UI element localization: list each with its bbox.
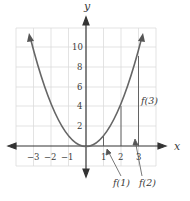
x-tick-minus2: −2	[44, 152, 57, 162]
x-tick-minus1: −1	[61, 152, 74, 162]
x-axis-right-arrow-icon	[158, 143, 166, 149]
curve-left-arrow-icon	[27, 33, 34, 42]
x-tick-1: 1	[101, 152, 106, 162]
curve-right-arrow-icon	[138, 33, 145, 42]
y-tick-labels: 2 4 6 8 10	[72, 42, 83, 131]
y-tick-4: 4	[77, 101, 82, 111]
y-tick-10: 10	[72, 42, 83, 52]
annotation-f2: f(2)	[138, 177, 156, 188]
y-tick-2: 2	[77, 121, 82, 131]
x-tick-minus3: −3	[27, 152, 40, 162]
x-axis-left-arrow-icon	[8, 143, 16, 149]
x-axis-label: x	[174, 140, 181, 153]
y-tick-6: 6	[77, 82, 82, 92]
y-axis-label: y	[83, 0, 91, 13]
x-tick-labels: −3 −2 −1 1 2 3	[27, 152, 141, 162]
y-tick-8: 8	[77, 62, 82, 72]
x-tick-2: 2	[118, 152, 123, 162]
parabola-graph: y x −3 −2 −1 1 2 3 2 4 6 8 10 f(3) f(1) …	[0, 0, 190, 201]
y-axis-up-arrow-icon	[83, 17, 89, 25]
y-axis-down-arrow-icon	[83, 169, 89, 177]
annotation-f3: f(3)	[140, 95, 158, 106]
x-tick-3: 3	[136, 152, 141, 162]
annotation-f1: f(1)	[112, 177, 130, 188]
